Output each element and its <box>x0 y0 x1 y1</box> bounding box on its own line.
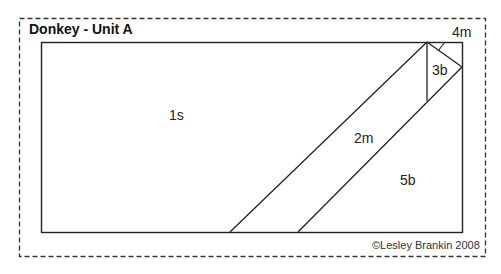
region-label-4m: 4m <box>452 24 471 40</box>
region-label-5b: 5b <box>400 172 416 188</box>
label-pointer-4m <box>438 42 445 51</box>
region-label-1s: 1s <box>169 107 184 123</box>
region-label-3b: 3b <box>432 62 448 78</box>
diagram-title: Donkey - Unit A <box>29 21 133 37</box>
dashed-frame <box>20 19 486 257</box>
region-label-2m: 2m <box>354 130 373 146</box>
division-line-1s-2m <box>230 42 427 232</box>
division-line-2m-5b <box>298 67 462 232</box>
field-outline <box>42 43 463 233</box>
copyright-text: ©Lesley Brankin 2008 <box>372 239 480 251</box>
unit-diagram: Donkey - Unit A 1s 2m 3b 4m 5b ©Lesley B… <box>0 0 501 274</box>
